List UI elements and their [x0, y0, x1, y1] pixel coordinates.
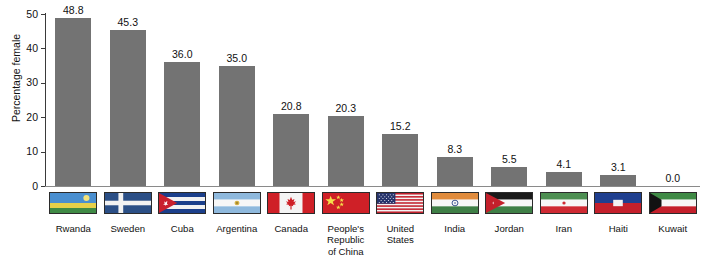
y-axis-tick-label: 20	[12, 112, 38, 122]
flag-iran-icon	[540, 192, 588, 214]
y-axis-tick-label: 10	[12, 146, 38, 156]
bar-haiti	[600, 175, 636, 186]
category-label: Haiti	[588, 223, 648, 234]
category-label: Cuba	[152, 223, 212, 234]
flag-canada-icon	[267, 192, 315, 214]
bar-rwanda	[55, 18, 91, 186]
flag-india-icon	[431, 192, 479, 214]
bar-value-label: 35.0	[211, 53, 263, 64]
bar-value-label: 36.0	[156, 49, 208, 60]
bar-cuba	[164, 62, 200, 186]
bar-chart-percentage-female: Percentage female 01020304050 RwandaSwed…	[0, 0, 708, 270]
category-label: Canada	[261, 223, 321, 234]
bar-value-label: 45.3	[102, 17, 154, 28]
y-axis-tick-label: 40	[12, 43, 38, 53]
bar-value-label: 3.1	[592, 162, 644, 173]
flag-united-states-icon	[376, 192, 424, 214]
bar-india	[437, 157, 473, 186]
y-axis-tick-label: 50	[12, 9, 38, 19]
bar-value-label: 20.3	[320, 103, 372, 114]
y-axis-tick-label: 30	[12, 77, 38, 87]
flag-china-icon	[322, 192, 370, 214]
plot-area	[46, 14, 700, 186]
x-axis-baseline	[45, 186, 700, 187]
y-axis-tick-label: 0	[12, 181, 38, 191]
flag-cuba-icon	[158, 192, 206, 214]
category-label: Iran	[534, 223, 594, 234]
bar-iran	[546, 172, 582, 186]
category-label: Kuwait	[643, 223, 703, 234]
bar-people-s-republic-of-china	[328, 116, 364, 186]
category-label: Argentina	[207, 223, 267, 234]
flag-argentina-icon	[213, 192, 261, 214]
flag-rwanda-icon	[49, 192, 97, 214]
flag-sweden-icon	[104, 192, 152, 214]
bar-value-label: 5.5	[483, 154, 535, 165]
flag-jordan-icon	[485, 192, 533, 214]
category-label: Sweden	[98, 223, 158, 234]
category-label: India	[425, 223, 485, 234]
bar-united-states	[382, 134, 418, 186]
bar-argentina	[219, 66, 255, 186]
category-label: Jordan	[479, 223, 539, 234]
bar-value-label: 8.3	[429, 144, 481, 155]
category-label: Rwanda	[43, 223, 103, 234]
bar-value-label: 48.8	[47, 5, 99, 16]
flag-haiti-icon	[594, 192, 642, 214]
bar-value-label: 0.0	[647, 173, 699, 184]
category-label: People's Republic of China	[316, 223, 376, 257]
bar-value-label: 4.1	[538, 159, 590, 170]
flag-kuwait-icon	[649, 192, 697, 214]
bar-canada	[273, 114, 309, 186]
bar-value-label: 20.8	[265, 101, 317, 112]
category-label: United States	[370, 223, 430, 246]
bar-sweden	[110, 30, 146, 186]
bar-jordan	[491, 167, 527, 186]
y-axis-tick-labels: 01020304050	[8, 0, 38, 270]
bar-value-label: 15.2	[374, 121, 426, 132]
